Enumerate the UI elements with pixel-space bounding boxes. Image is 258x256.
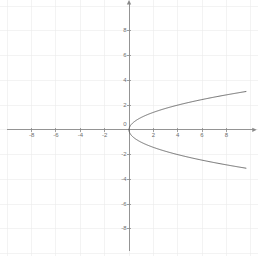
y-tick-label: -2 bbox=[121, 151, 127, 157]
y-tick-label: -4 bbox=[121, 176, 127, 182]
y-tick-label: 4 bbox=[123, 77, 127, 83]
y-axis-arrow-icon bbox=[127, 0, 131, 5]
x-tick-label: -8 bbox=[29, 132, 35, 138]
x-tick-label: 8 bbox=[225, 132, 229, 138]
y-tick-label: 2 bbox=[123, 102, 127, 108]
y-tick-label: 6 bbox=[123, 52, 127, 58]
y-tick-label: -8 bbox=[121, 225, 127, 231]
graph-figure: -8-6-4-224688642-2-4-6-8 0 bbox=[0, 0, 258, 256]
x-axis-arrow-icon bbox=[252, 128, 257, 132]
coordinate-plane-svg: -8-6-4-224688642-2-4-6-8 0 bbox=[0, 0, 258, 256]
x-tick-label: 4 bbox=[176, 132, 180, 138]
parabola-upper-branch bbox=[129, 92, 246, 130]
axes-group bbox=[7, 0, 256, 251]
y-tick-label: 8 bbox=[123, 27, 127, 33]
x-tick-label: 6 bbox=[200, 132, 204, 138]
y-tick-label: -6 bbox=[121, 201, 127, 207]
origin-label: 0 bbox=[123, 121, 127, 127]
x-tick-label: -4 bbox=[78, 132, 84, 138]
x-tick-label: 2 bbox=[152, 132, 156, 138]
parabola-lower-branch bbox=[129, 130, 246, 168]
x-tick-label: -6 bbox=[53, 132, 59, 138]
x-tick-label: -2 bbox=[102, 132, 108, 138]
